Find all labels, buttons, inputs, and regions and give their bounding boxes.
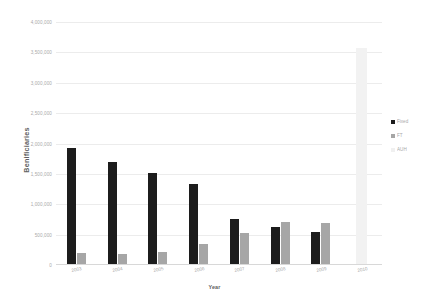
y-axis-tick-label: 3,500,000 xyxy=(31,50,52,55)
bar-group xyxy=(219,22,260,265)
bar xyxy=(67,148,76,265)
x-axis-title: Year xyxy=(0,284,429,290)
legend-item[interactable]: AUH xyxy=(391,147,408,152)
x-axis-tick-label: 2004 xyxy=(112,266,123,274)
bar-group xyxy=(341,22,382,265)
y-axis-tick-label: 2,500,000 xyxy=(31,111,52,116)
bar xyxy=(189,184,198,265)
bar xyxy=(240,233,249,266)
legend-swatch-icon xyxy=(391,134,395,138)
y-axis-tick-label: 3,000,000 xyxy=(31,80,52,85)
plot-area xyxy=(56,22,382,265)
bar xyxy=(108,162,117,265)
bar-group xyxy=(260,22,301,265)
legend-item[interactable]: Fixed xyxy=(391,119,408,124)
x-axis-tick-label: 2005 xyxy=(153,266,164,274)
x-axis-ticks: 20032004200520062007200820092010 xyxy=(56,267,382,283)
x-axis-tick-label: 2010 xyxy=(357,266,368,274)
bar-chart: Benificiaries 0500,0001,000,0001,500,000… xyxy=(0,0,429,300)
bar-group xyxy=(301,22,342,265)
legend-label: Fixed xyxy=(397,119,408,124)
x-axis-tick-label: 2008 xyxy=(275,266,286,274)
x-axis-tick-label: 2003 xyxy=(71,266,82,274)
y-axis-tick-label: 500,000 xyxy=(35,232,52,237)
x-axis-tick-label: 2006 xyxy=(194,266,205,274)
bar xyxy=(271,227,280,265)
legend-label: FT xyxy=(397,133,403,138)
x-axis-tick-label: 2009 xyxy=(316,266,327,274)
y-axis-tick-label: 0 xyxy=(49,263,52,268)
bar xyxy=(230,219,239,265)
legend-label: AUH xyxy=(397,147,407,152)
bar-group xyxy=(138,22,179,265)
y-axis-tick-label: 4,000,000 xyxy=(31,20,52,25)
bar xyxy=(356,48,367,265)
bar xyxy=(199,244,208,265)
legend-swatch-icon xyxy=(391,148,395,152)
y-axis-ticks: 0500,0001,000,0001,500,0002,000,0002,500… xyxy=(0,0,56,300)
y-axis-tick-label: 1,000,000 xyxy=(31,202,52,207)
axis-baseline xyxy=(56,264,382,265)
bar-group xyxy=(178,22,219,265)
x-axis-tick-label: 2007 xyxy=(234,266,245,274)
legend-item[interactable]: FT xyxy=(391,133,408,138)
bar xyxy=(148,173,157,265)
bar xyxy=(281,222,290,265)
legend-swatch-icon xyxy=(391,120,395,124)
y-axis-tick-label: 2,000,000 xyxy=(31,141,52,146)
bar xyxy=(311,232,320,265)
bar xyxy=(321,223,330,265)
y-axis-tick-label: 1,500,000 xyxy=(31,171,52,176)
chart-legend: FixedFTAUH xyxy=(391,119,408,152)
bar-group xyxy=(97,22,138,265)
bar-group xyxy=(56,22,97,265)
